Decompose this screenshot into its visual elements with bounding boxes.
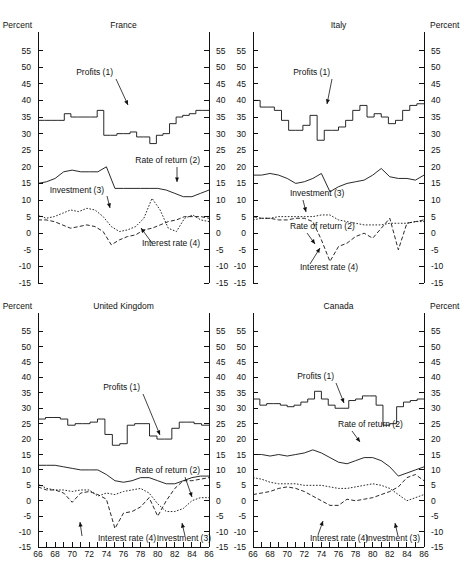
y-tick-label-right: 50 [431, 62, 441, 72]
x-tick-label: 72 [300, 549, 310, 559]
x-tick-label: 68 [265, 549, 275, 559]
y-tick-label-left: 30 [22, 403, 32, 413]
y-tick-label-left: -5 [23, 511, 31, 521]
y-tick-label-right: 10 [216, 195, 226, 205]
panel-uk: PercentUnited Kingdom5555505045454040353… [3, 301, 229, 559]
y-tick-label-right: -5 [431, 511, 439, 521]
chart-canvas: PercentFrance555550504545404035353030252… [0, 0, 464, 587]
annotation-label: Investment (3) [366, 533, 420, 543]
y-tick-label-right: 35 [216, 388, 226, 398]
y-tick-label-right: 15 [216, 450, 226, 460]
y-tick-label-right: 20 [431, 434, 441, 444]
right-percent-header: Percent [430, 301, 460, 311]
y-tick-label-left: 15 [22, 178, 32, 188]
y-tick-label-left: 10 [237, 465, 247, 475]
y-tick-label-left: 5 [26, 212, 31, 222]
y-tick-label-left: -15 [19, 278, 32, 288]
x-tick-label: 74 [102, 549, 112, 559]
annotation-label: Profits (1) [293, 67, 330, 77]
y-tick-label-left: 55 [22, 46, 32, 56]
x-tick-label: 80 [368, 549, 378, 559]
y-tick-label-left: 25 [237, 419, 247, 429]
annotation-arrowhead [79, 522, 83, 527]
y-tick-label-left: 30 [237, 129, 247, 139]
y-tick-label-right: -10 [431, 261, 444, 271]
y-tick-label-left: 15 [237, 178, 247, 188]
y-tick-label-left: 35 [22, 112, 32, 122]
y-tick-label-right: 40 [216, 95, 226, 105]
x-tick-label: 84 [402, 549, 412, 559]
annotation-label: Interest rate (4) [98, 533, 156, 543]
series-investment-3 [38, 198, 209, 231]
x-tick-label: 66 [33, 549, 43, 559]
y-tick-label-right: 50 [216, 342, 226, 352]
annotation-label: Interest rate (4) [142, 238, 200, 248]
y-tick-label-left: -5 [238, 511, 246, 521]
y-tick-label-left: 5 [241, 212, 246, 222]
annotation-arrowhead [326, 99, 330, 104]
annotation-arrowhead [311, 239, 315, 244]
y-tick-label-left: 45 [237, 357, 247, 367]
annotation-label: Rate of return (2) [338, 419, 403, 429]
annotation-arrowhead [316, 248, 320, 253]
y-tick-label-right: 55 [431, 46, 441, 56]
x-tick-label: 72 [85, 549, 95, 559]
y-tick-label-right: 20 [216, 434, 226, 444]
panel-title-uk: United Kingdom [93, 301, 153, 311]
y-tick-label-left: 25 [22, 145, 32, 155]
y-tick-label-right: 25 [216, 145, 226, 155]
y-tick-label-right: -15 [431, 278, 444, 288]
series-profits-1 [253, 100, 424, 140]
y-tick-label-left: -15 [234, 278, 247, 288]
right-percent-header: Percent [430, 20, 460, 30]
panel-title-france: France [110, 20, 137, 30]
series-investment-3 [253, 478, 424, 501]
x-tick-label: 86 [204, 549, 214, 559]
x-tick-label: 68 [50, 549, 60, 559]
x-tick-label: 78 [136, 549, 146, 559]
y-tick-label-right: 0 [216, 496, 221, 506]
series-rate-of-return-2 [253, 450, 424, 476]
y-tick-label-right: 55 [216, 326, 226, 336]
panel-italy: PercentItaly5555505045454040353530302525… [234, 20, 460, 288]
annotation-label: Investment (3) [290, 188, 344, 198]
annotation-label: Investment (3) [50, 185, 104, 195]
x-tick-label: 84 [187, 549, 197, 559]
y-tick-label-left: 55 [237, 326, 247, 336]
y-tick-label-right: -15 [216, 278, 229, 288]
figure-four-panel-chart: PercentFrance555550504545404035353030252… [0, 0, 464, 587]
y-tick-label-left: 10 [237, 195, 247, 205]
annotation-label: Profits (1) [297, 371, 334, 381]
y-tick-label-right: 5 [216, 480, 221, 490]
x-tick-label: 76 [119, 549, 129, 559]
y-tick-label-left: 20 [22, 162, 32, 172]
y-tick-label-left: -5 [23, 245, 31, 255]
y-tick-label-left: 35 [237, 388, 247, 398]
panel-title-canada: Canada [324, 301, 354, 311]
y-tick-label-left: 0 [241, 228, 246, 238]
y-tick-label-right: 15 [431, 178, 441, 188]
y-tick-label-right: 55 [216, 46, 226, 56]
x-tick-label: 70 [67, 549, 77, 559]
y-tick-label-right: 30 [431, 129, 441, 139]
y-tick-label-left: -10 [19, 261, 32, 271]
series-profits-1 [38, 110, 209, 143]
series-interest-rate-4 [253, 475, 424, 506]
y-tick-label-left: 40 [237, 95, 247, 105]
y-tick-label-left: 50 [22, 342, 32, 352]
annotation-arrowhead [320, 521, 324, 526]
y-tick-label-right: -10 [216, 527, 229, 537]
x-tick-label: 82 [385, 549, 395, 559]
y-tick-label-right: -10 [431, 527, 444, 537]
y-tick-label-left: 40 [237, 372, 247, 382]
annotation-label: Rate of return (2) [135, 155, 200, 165]
y-tick-label-right: -5 [431, 245, 439, 255]
series-profits-1 [38, 418, 209, 446]
y-tick-label-left: 50 [237, 342, 247, 352]
left-percent-header: Percent [3, 301, 33, 311]
y-tick-label-left: 0 [26, 496, 31, 506]
x-tick-label: 78 [351, 549, 361, 559]
y-tick-label-right: 25 [431, 145, 441, 155]
x-tick-label: 66 [248, 549, 258, 559]
y-tick-label-right: 15 [216, 178, 226, 188]
